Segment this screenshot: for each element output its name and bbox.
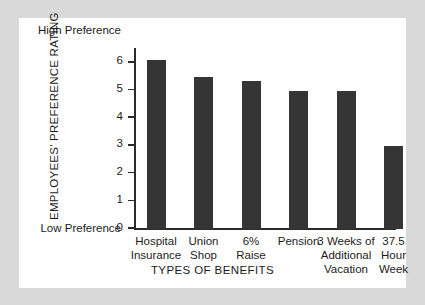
y-tick-label: 5	[101, 83, 123, 95]
y-tick-label: 6	[101, 55, 123, 67]
y-tick-mark	[128, 144, 134, 146]
y-tick-mark	[128, 227, 134, 229]
figure-root: EMPLOYEES' PREFERENCE RATING High Prefer…	[0, 0, 425, 305]
low-preference-line1: Low	[40, 222, 61, 234]
x-axis-category-labels: HospitalInsuranceUnionShop6%RaisePension…	[115, 234, 415, 284]
y-tick-label: 0	[101, 222, 123, 234]
y-tick-mark	[128, 172, 134, 174]
x-category-label-line: Raise	[206, 248, 296, 262]
plot-area: High Preference Low Preference 0123456	[115, 40, 396, 236]
y-tick-label: 3	[101, 138, 123, 150]
y-tick-label: 2	[101, 166, 123, 178]
bar	[384, 146, 403, 229]
bar	[337, 91, 356, 229]
chart-panel: EMPLOYEES' PREFERENCE RATING High Prefer…	[19, 18, 406, 288]
y-tick-mark	[128, 89, 134, 91]
y-axis-title: EMPLOYEES' PREFERENCE RATING	[48, 20, 60, 220]
x-axis-title: TYPES OF BENEFITS	[19, 264, 406, 276]
y-tick-label: 4	[101, 111, 123, 123]
high-preference-line1: High	[38, 24, 62, 36]
y-tick-mark	[128, 61, 134, 63]
bar	[289, 91, 308, 229]
x-category-label-line: Hour	[349, 248, 425, 262]
high-preference-line2: Preference	[65, 24, 121, 36]
x-category-label-line: 37.5	[349, 234, 425, 248]
bar	[194, 77, 213, 229]
y-tick-label: 1	[101, 194, 123, 206]
high-preference-annotation: High Preference	[29, 24, 121, 37]
y-axis-line	[134, 48, 136, 229]
x-axis-line	[134, 228, 396, 230]
y-tick-mark	[128, 200, 134, 202]
y-tick-mark	[128, 116, 134, 118]
bar	[242, 81, 261, 229]
bar	[147, 60, 166, 229]
